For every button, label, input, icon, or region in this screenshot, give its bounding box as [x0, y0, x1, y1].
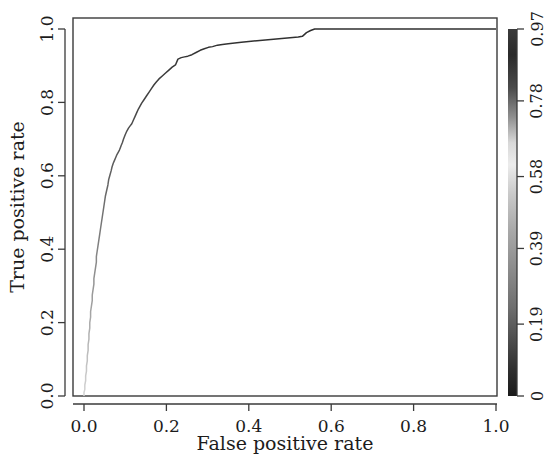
x-tick-label: 1.0 [482, 416, 509, 436]
y-axis-ticks [58, 29, 65, 396]
plot-frame [73, 18, 497, 396]
roc-curve-line [84, 29, 496, 396]
x-axis-ticks [84, 404, 496, 411]
colorbar-tick-label: 0.58 [528, 159, 547, 195]
x-tick-label: 0.0 [70, 416, 97, 436]
colorbar-tick-label: 0.78 [528, 83, 547, 119]
y-tick-label: 1.0 [37, 15, 57, 42]
colorbar-tick-label: 0 [528, 391, 547, 401]
x-tick-label: 0.8 [400, 416, 427, 436]
threshold-colorbar [508, 29, 517, 396]
colorbar-tick-label: 0.97 [528, 11, 547, 47]
colorbar-ticks [517, 29, 524, 396]
roc-chart-figure: 0.00.20.40.60.81.0 0.00.20.40.60.81.0 0.… [0, 0, 550, 463]
colorbar-tick-labels: 0.970.780.580.390.190 [528, 11, 547, 401]
y-tick-label: 0.2 [37, 309, 57, 336]
y-axis-tick-labels: 0.00.20.40.60.81.0 [37, 15, 57, 409]
roc-plot-canvas: 0.00.20.40.60.81.0 0.00.20.40.60.81.0 0.… [0, 0, 550, 463]
y-tick-label: 0.4 [37, 236, 57, 263]
colorbar-tick-label: 0.39 [528, 231, 547, 267]
y-tick-label: 0.6 [37, 162, 57, 189]
y-tick-label: 0.8 [37, 89, 57, 116]
y-axis-title: True positive rate [6, 121, 28, 293]
y-tick-label: 0.0 [37, 382, 57, 409]
colorbar-tick-label: 0.19 [528, 306, 547, 342]
x-axis-title: False positive rate [197, 432, 374, 454]
x-tick-label: 0.2 [153, 416, 180, 436]
